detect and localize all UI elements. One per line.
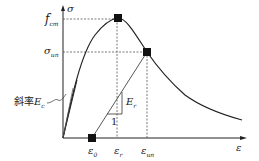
epsilon-0-label: ε0: [88, 146, 97, 158]
stress-strain-curve: [63, 18, 242, 138]
slope-prefix-text: 斜率: [14, 96, 34, 107]
stress-strain-diagram: [0, 0, 259, 161]
x-axis-label-text: ε: [236, 142, 241, 153]
slope-ec-label: 斜率Ec: [14, 97, 45, 109]
peak-marker: [114, 14, 122, 22]
epsilon-un-sub: un: [146, 151, 154, 158]
reload-modulus-label: Er: [126, 97, 136, 109]
sigma-un-label: σun: [44, 46, 59, 58]
reload-line: [92, 52, 147, 138]
sigma-un-main: σ: [44, 45, 51, 56]
unit-run-label: 1: [111, 117, 117, 127]
y-axis-arrow-icon: [61, 5, 65, 11]
slope-ec-sub: c: [41, 102, 44, 109]
epsilon-r-sub: r: [119, 151, 122, 158]
tangent-line-inner: [63, 88, 73, 138]
fcm-sub: cm: [49, 20, 58, 27]
x-axis-label: ε: [236, 143, 241, 153]
unload-point-marker: [143, 48, 151, 56]
unit-run-text: 1: [111, 116, 117, 127]
y-axis-label: σ: [67, 4, 74, 14]
epsilon-r-label: εr: [114, 146, 122, 158]
fcm-label: fcm: [45, 13, 59, 27]
er-sub: r: [133, 102, 136, 109]
x-axis-arrow-icon: [240, 136, 247, 140]
sigma-un-sub: un: [51, 51, 59, 58]
plastic-strain-marker: [88, 134, 96, 142]
epsilon-0-sub: 0: [93, 151, 97, 158]
tangent-line-outer: [63, 80, 77, 138]
y-axis-label-text: σ: [67, 3, 74, 14]
epsilon-un-label: εun: [141, 146, 154, 158]
